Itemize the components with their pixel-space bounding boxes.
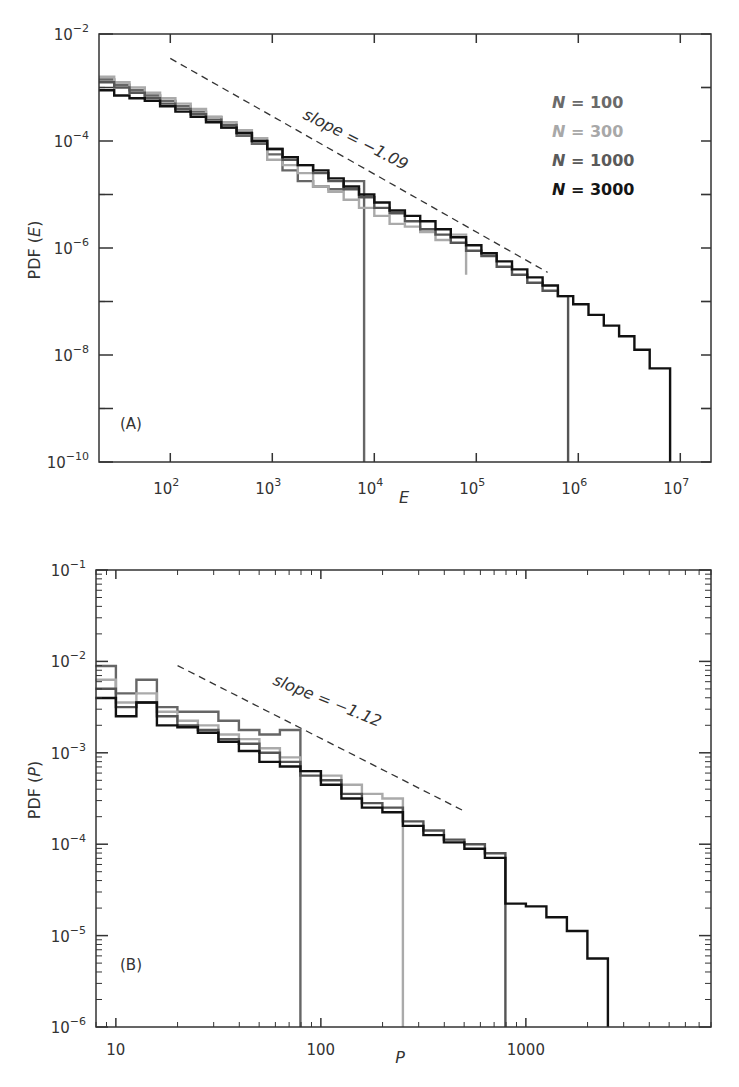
legend-item: N = 1000 <box>552 151 634 170</box>
legend-item: N = 100 <box>552 93 623 112</box>
series-n1000 <box>99 82 568 462</box>
panel-a-label: (A) <box>120 415 142 433</box>
x-tick-label: 10 <box>106 1041 125 1059</box>
x-tick-label: 107 <box>663 476 689 498</box>
y-tick-label: 10−3 <box>51 741 86 763</box>
x-tick-label: 106 <box>561 476 587 498</box>
series-n300 <box>95 680 403 1027</box>
panel-b-x-axis-title: P <box>395 1048 405 1067</box>
y-tick-label: 10−8 <box>54 343 89 365</box>
x-tick-label: 104 <box>357 476 383 498</box>
x-tick-label: 103 <box>255 476 281 498</box>
y-tick-label: 10−6 <box>51 1015 86 1037</box>
series-n100 <box>99 80 364 463</box>
panel-b-chart: 10−110−210−310−410−510−6101001000 slope … <box>25 558 711 1067</box>
var-p: P <box>25 767 44 777</box>
panel-b-label: (B) <box>120 956 142 974</box>
y-tick-label: 10−2 <box>54 22 89 44</box>
x-tick-label: 105 <box>459 476 485 498</box>
y-tick-label: 10−4 <box>54 129 89 151</box>
figure: 10−210−410−610−810−10102103104105106107 … <box>0 0 739 1087</box>
panel-a-legend: N = 100N = 300N = 1000N = 3000 <box>552 93 634 199</box>
y-tick-label: 10−10 <box>47 450 89 472</box>
x-tick-label: 102 <box>153 476 179 498</box>
series-n3000 <box>95 698 608 1027</box>
y-tick-label: 10−2 <box>51 649 86 671</box>
panel-a-y-axis-title: PDF (E) <box>25 221 44 280</box>
panel-a-x-axis-title: E <box>399 488 410 507</box>
series-n300 <box>99 77 466 275</box>
y-tick-label: 10−5 <box>51 924 86 946</box>
legend-item: N = 3000 <box>552 180 634 199</box>
x-tick-label: 1000 <box>507 1041 545 1059</box>
y-tick-label: 10−6 <box>54 236 89 258</box>
y-tick-label: 10−4 <box>51 832 86 854</box>
pdf-label: PDF ( <box>25 237 44 280</box>
panel-a-chart: 10−210−410−610−810−10102103104105106107 … <box>25 22 711 507</box>
y-tick-label: 10−1 <box>51 558 86 580</box>
pdf-label: PDF ( <box>25 777 44 820</box>
panel-b-y-axis-title: PDF (P) <box>25 761 44 819</box>
panel-a-slope-line <box>170 58 547 272</box>
legend-item: N = 300 <box>552 122 623 141</box>
panel-a-slope-annotation: slope = −1.09 <box>300 105 411 174</box>
x-tick-label: 100 <box>307 1041 336 1059</box>
